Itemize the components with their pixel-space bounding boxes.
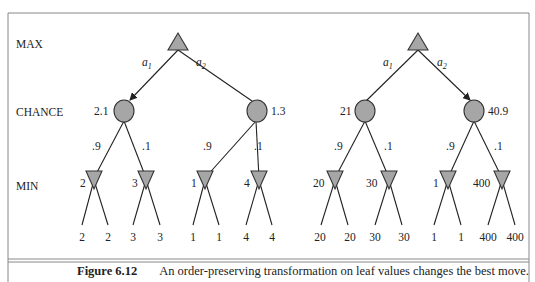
leaf-value: 2 — [105, 231, 111, 243]
chance-node — [464, 100, 484, 122]
left-tree: a1 a2 2.1 1.3 .9 .1 .9 .1 2 3 1 4 — [79, 33, 286, 243]
edge-a1 — [366, 50, 418, 101]
min-value: 30 — [366, 177, 378, 189]
min-value: 20 — [313, 177, 325, 189]
min-node — [327, 171, 343, 189]
action-label-a1: a1 — [142, 56, 152, 71]
min-value: 2 — [80, 177, 86, 189]
leaf-value: 400 — [479, 231, 497, 243]
leaf-value: 4 — [243, 231, 249, 243]
leaf-value: 20 — [344, 231, 356, 243]
min-node — [381, 171, 397, 189]
figure-caption: Figure 6.12An order-preserving transform… — [77, 264, 529, 279]
min-node — [494, 171, 510, 189]
chance-value: 40.9 — [488, 105, 508, 117]
leaf-value: 400 — [506, 231, 524, 243]
chance-value: 1.3 — [271, 105, 286, 117]
leaf-value: 3 — [130, 231, 136, 243]
min-node — [440, 171, 456, 189]
min-value: 1 — [191, 177, 197, 189]
min-value: 1 — [433, 177, 439, 189]
probability-label: .9 — [446, 140, 455, 152]
min-node — [251, 171, 267, 189]
edge-a2 — [418, 50, 470, 100]
chance-node — [247, 100, 267, 122]
figure-number: Figure 6.12 — [77, 264, 137, 278]
right-tree: a1 a2 21 40.9 .9 .1 .9 .1 20 30 1 400 20… — [313, 33, 524, 243]
leaf-value: 1 — [190, 231, 196, 243]
game-tree-figure: MAX CHANCE MIN a1 a2 2.1 1.3 .9 .1 .9 .1 — [0, 0, 535, 282]
leaf-value: 2 — [79, 231, 85, 243]
leaf-value: 4 — [269, 231, 275, 243]
chance-node — [355, 100, 375, 122]
leaf-value: 1 — [458, 231, 464, 243]
leaf-value: 1 — [216, 231, 222, 243]
leaf-value: 30 — [398, 231, 410, 243]
leaf-value: 30 — [369, 231, 381, 243]
min-node — [197, 171, 213, 189]
edge-a1 — [130, 50, 178, 100]
min-value: 400 — [473, 177, 491, 189]
probability-label: .9 — [203, 140, 212, 152]
leaf-value: 3 — [157, 231, 163, 243]
action-label-a2: a2 — [196, 56, 206, 71]
chance-value: 2.1 — [94, 105, 109, 117]
probability-label: .9 — [92, 140, 101, 152]
probability-label: .9 — [334, 140, 343, 152]
min-node — [86, 171, 102, 189]
row-label-min: MIN — [16, 180, 39, 192]
min-node — [138, 171, 154, 189]
action-label-a1: a1 — [383, 56, 393, 71]
edge-a2 — [178, 50, 252, 101]
leaf-value: 1 — [431, 231, 437, 243]
min-value: 3 — [132, 177, 138, 189]
probability-label: .1 — [494, 140, 503, 152]
caption-text: An order-preserving transformation on le… — [159, 264, 529, 278]
min-value: 4 — [244, 177, 250, 189]
probability-label: .1 — [254, 140, 263, 152]
row-label-chance: CHANCE — [16, 106, 63, 118]
chance-value: 21 — [340, 105, 352, 117]
max-node — [408, 33, 428, 50]
probability-label: .1 — [142, 140, 151, 152]
chance-node — [114, 100, 134, 122]
action-label-a2: a2 — [437, 56, 447, 71]
leaf-value: 20 — [314, 231, 326, 243]
probability-label: .1 — [384, 140, 393, 152]
max-node — [168, 33, 188, 50]
row-label-max: MAX — [16, 38, 44, 50]
